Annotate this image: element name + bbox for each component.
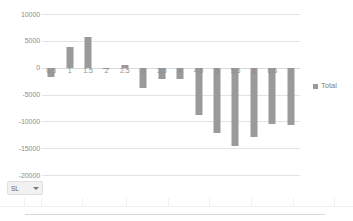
x-tick-label: 0.5 <box>46 66 56 75</box>
bar-slot <box>282 14 300 175</box>
bar-total[interactable] <box>85 37 92 68</box>
x-tick-label: 4 <box>178 66 182 75</box>
x-tick-label: 1.5 <box>83 66 93 75</box>
y-tick-label: 0 <box>2 64 40 71</box>
spreadsheet-grid <box>0 198 353 221</box>
slicer-label: SL <box>11 185 19 192</box>
x-tick-label: 5.5 <box>231 66 241 75</box>
sheet-column-divider <box>293 198 294 206</box>
bar-slot <box>171 14 189 175</box>
bar-total[interactable] <box>250 68 257 138</box>
sheet-column-divider <box>251 198 252 206</box>
legend-entry-label: Total <box>321 82 337 90</box>
bar-slot <box>263 14 281 175</box>
bar-slot <box>134 14 152 175</box>
bar-slot <box>153 14 171 175</box>
sheet-column-divider <box>41 198 42 206</box>
bar-slot <box>208 14 226 175</box>
x-tick-label: 5 <box>215 66 219 75</box>
x-tick-label: 6 <box>252 66 256 75</box>
y-tick-label: -15000 <box>2 145 40 152</box>
chevron-down-icon[interactable] <box>33 187 39 190</box>
y-tick-label: -20000 <box>2 172 40 179</box>
bar-slot <box>116 14 134 175</box>
sheet-separator <box>25 214 325 215</box>
bar-slot <box>60 14 78 175</box>
sheet-row <box>0 198 353 207</box>
chart-screenshot: 10000 5000 0 -5000 -10000 -15000 -20000 <box>0 0 353 221</box>
x-axis: 0.5 1 1.5 2 2.5 3 3.5 4 4.5 5 5.5 6 6.5 … <box>42 66 300 78</box>
sheet-column-divider <box>209 198 210 206</box>
x-tick-label: 3.5 <box>157 66 167 75</box>
y-tick-label: -10000 <box>2 118 40 125</box>
gridline <box>42 175 300 176</box>
chart-legend[interactable]: Total <box>313 82 337 90</box>
sheet-column-divider <box>82 198 83 206</box>
bar-total[interactable] <box>66 47 73 68</box>
sheet-column-divider <box>334 198 335 206</box>
sheet-column-divider <box>168 198 169 206</box>
bar-slot <box>42 14 60 175</box>
sheet-column-divider <box>24 198 25 206</box>
x-tick-label: 1 <box>68 66 72 75</box>
x-tick-label: 7 <box>289 66 293 75</box>
x-tick-label: 6.5 <box>268 66 278 75</box>
y-axis: 10000 5000 0 -5000 -10000 -15000 -20000 <box>0 14 40 175</box>
bar-series-total <box>42 14 300 175</box>
x-tick-label: 4.5 <box>194 66 204 75</box>
chart-container[interactable]: 10000 5000 0 -5000 -10000 -15000 -20000 <box>0 0 353 200</box>
bar-slot <box>245 14 263 175</box>
slicer-dropdown[interactable]: SL <box>7 181 43 195</box>
plot-area <box>42 14 300 175</box>
bar-total[interactable] <box>232 68 239 146</box>
x-tick-label: 2 <box>105 66 109 75</box>
x-tick-label: 2.5 <box>120 66 130 75</box>
y-tick-label: 5000 <box>2 37 40 44</box>
bar-slot <box>79 14 97 175</box>
legend-swatch-icon <box>313 84 318 89</box>
x-tick-label: 3 <box>141 66 145 75</box>
y-tick-label: -5000 <box>2 91 40 98</box>
bar-slot <box>97 14 115 175</box>
bar-slot <box>189 14 207 175</box>
y-tick-label: 10000 <box>2 11 40 18</box>
bar-slot <box>226 14 244 175</box>
sheet-column-divider <box>126 198 127 206</box>
